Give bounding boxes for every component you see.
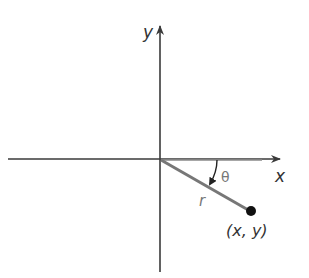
point-label: (x, y) (226, 221, 268, 240)
radius-label: r (199, 192, 206, 210)
polar-diagram: y x θ r (x, y) (0, 0, 309, 278)
angle-label: θ (221, 169, 230, 185)
y-axis-label: y (142, 22, 154, 42)
point-marker (246, 206, 256, 216)
x-axis-label: x (274, 166, 286, 186)
radius-line (161, 160, 250, 211)
angle-arc-icon (210, 160, 217, 184)
